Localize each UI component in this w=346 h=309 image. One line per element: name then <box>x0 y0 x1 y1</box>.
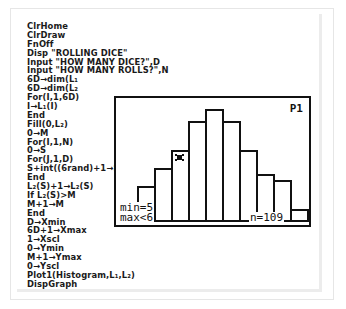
plot-label: P1 <box>290 102 303 115</box>
trace-cursor-icon <box>175 146 184 153</box>
n-label: n=109 <box>249 212 284 223</box>
code-line: DispGraph <box>27 280 169 289</box>
max-label: max<6 <box>119 212 154 223</box>
calculator-graph-screen: P1 min=5max<6n=109 <box>114 96 311 227</box>
